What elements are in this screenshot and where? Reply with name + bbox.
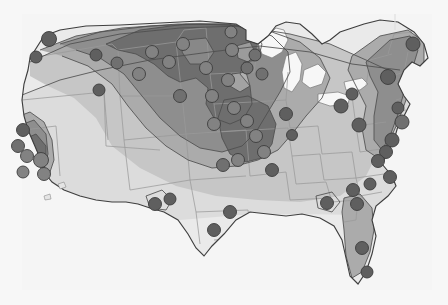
marker-tucson bbox=[164, 193, 176, 205]
marker-miami bbox=[361, 266, 373, 278]
marker-st-louis bbox=[258, 146, 271, 159]
marker-sacramento bbox=[17, 124, 30, 137]
marker-duluth bbox=[225, 26, 237, 38]
marker-seattle bbox=[42, 32, 57, 47]
marker-indianapolis bbox=[287, 130, 298, 141]
marker-cedar-rapids bbox=[241, 62, 253, 74]
marker-fargo bbox=[177, 38, 190, 51]
marker-tulsa bbox=[232, 154, 245, 167]
marker-spokane bbox=[90, 49, 102, 61]
marker-phoenix bbox=[149, 198, 162, 211]
marker-springfield-mo bbox=[250, 130, 263, 143]
marker-san-francisco bbox=[12, 140, 25, 153]
marker-billings bbox=[111, 57, 123, 69]
marker-dallas bbox=[224, 206, 237, 219]
marker-jacksonville bbox=[351, 198, 364, 211]
marker-atlanta bbox=[321, 197, 334, 210]
marker-boise bbox=[93, 84, 105, 96]
marker-portland bbox=[30, 51, 42, 63]
marker-bakersfield bbox=[21, 150, 34, 163]
marker-minot bbox=[163, 56, 176, 69]
marker-cleveland bbox=[334, 99, 348, 113]
marker-des-moines bbox=[222, 74, 235, 87]
us-contour-map-figure bbox=[0, 0, 448, 305]
marker-orlando bbox=[356, 242, 369, 255]
marker-new-york bbox=[395, 115, 409, 129]
marker-topeka bbox=[241, 115, 254, 128]
marker-wichita bbox=[208, 118, 221, 131]
marker-sioux-falls bbox=[200, 62, 213, 75]
marker-rapid-city bbox=[133, 68, 146, 81]
marker-washington-dc bbox=[372, 155, 385, 168]
map-canvas bbox=[0, 0, 448, 305]
marker-san-antonio bbox=[208, 224, 221, 237]
marker-raleigh bbox=[364, 178, 376, 190]
marker-chicago bbox=[280, 108, 293, 121]
marker-kansas-city bbox=[228, 102, 241, 115]
marker-minneapolis bbox=[226, 44, 239, 57]
marker-portland-me bbox=[406, 37, 420, 51]
marker-milwaukee bbox=[256, 68, 268, 80]
marker-philadelphia bbox=[385, 133, 399, 147]
marker-norfolk bbox=[384, 171, 397, 184]
marker-san-diego bbox=[38, 168, 51, 181]
marker-los-angeles bbox=[34, 153, 49, 168]
marker-madison bbox=[249, 49, 261, 61]
marker-pittsburgh bbox=[352, 118, 366, 132]
scan-artifact-mark bbox=[394, 14, 396, 30]
marker-oklahoma-city bbox=[217, 159, 230, 172]
marker-omaha bbox=[206, 90, 219, 103]
marker-bismarck bbox=[146, 46, 159, 59]
marker-denver bbox=[174, 90, 187, 103]
marker-buffalo bbox=[346, 88, 358, 100]
marker-charlotte bbox=[347, 184, 360, 197]
marker-las-vegas bbox=[17, 166, 29, 178]
marker-memphis bbox=[266, 164, 279, 177]
marker-hartford bbox=[392, 102, 404, 114]
marker-boston bbox=[381, 70, 396, 85]
